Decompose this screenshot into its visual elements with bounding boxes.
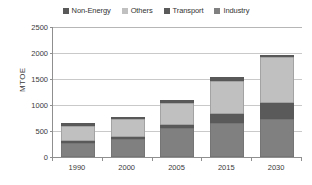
x-tick-5 (301, 157, 302, 161)
x-axis-labels: 19902000200520152030 (52, 163, 301, 172)
bar-segment-transport-2015[interactable] (210, 114, 244, 123)
legend-label-non-energy: Non-Energy (72, 6, 111, 15)
bar-segment-others-2000[interactable] (111, 119, 145, 137)
x-axis-label-2000: 2000 (110, 163, 144, 172)
x-axis-label-2030: 2030 (259, 163, 293, 172)
chart-legend: Non-Energy Others Transport Industry (0, 6, 312, 15)
y-axis-title: MTOE (18, 67, 27, 92)
bar-group-2015[interactable] (210, 27, 244, 157)
bar-segment-industry-2005[interactable] (160, 128, 194, 157)
x-axis-label-2005: 2005 (159, 163, 193, 172)
x-tick-2 (152, 157, 153, 161)
bar-segment-others-2015[interactable] (210, 81, 244, 114)
y-tick-label-500: 500 (35, 127, 48, 136)
legend-item-non-energy[interactable]: Non-Energy (63, 6, 111, 15)
legend-swatch-others (122, 8, 128, 14)
x-tick-0 (52, 157, 53, 161)
bar-group-2030[interactable] (260, 27, 294, 157)
plot-area: 05001000150020002500 (52, 27, 302, 158)
bar-segment-others-2005[interactable] (160, 103, 194, 125)
bar-segment-others-1990[interactable] (61, 126, 95, 141)
bar-group-2005[interactable] (160, 27, 194, 157)
legend-label-industry: Industry (223, 6, 249, 15)
legend-item-industry[interactable]: Industry (214, 6, 249, 15)
x-axis-label-2015: 2015 (209, 163, 243, 172)
bar-series-container (53, 27, 302, 157)
legend-swatch-industry (214, 8, 220, 14)
legend-swatch-transport (164, 8, 170, 14)
y-tick-label-2000: 2000 (31, 49, 48, 58)
y-tick-label-1000: 1000 (31, 101, 48, 110)
x-tick-4 (251, 157, 252, 161)
bar-segment-industry-1990[interactable] (61, 143, 95, 157)
stacked-bar-chart: Non-Energy Others Transport Industry MTO… (0, 0, 312, 185)
bar-group-1990[interactable] (61, 27, 95, 157)
legend-label-others: Others (131, 6, 153, 15)
x-axis-ticks (52, 157, 301, 162)
legend-label-transport: Transport (173, 6, 204, 15)
legend-swatch-non-energy (63, 8, 69, 14)
x-tick-1 (102, 157, 103, 161)
bar-segment-transport-2030[interactable] (260, 103, 294, 119)
bar-group-2000[interactable] (111, 27, 145, 157)
bar-segment-industry-2000[interactable] (111, 139, 145, 157)
y-tick-label-1500: 1500 (31, 75, 48, 84)
bar-segment-industry-2030[interactable] (260, 119, 294, 157)
legend-item-others[interactable]: Others (122, 6, 153, 15)
y-tick-label-0: 0 (44, 153, 48, 162)
bar-segment-others-2030[interactable] (260, 57, 294, 103)
legend-item-transport[interactable]: Transport (164, 6, 204, 15)
x-axis-label-1990: 1990 (60, 163, 94, 172)
x-tick-3 (201, 157, 202, 161)
bar-segment-industry-2015[interactable] (210, 123, 244, 157)
y-tick-label-2500: 2500 (31, 23, 48, 32)
